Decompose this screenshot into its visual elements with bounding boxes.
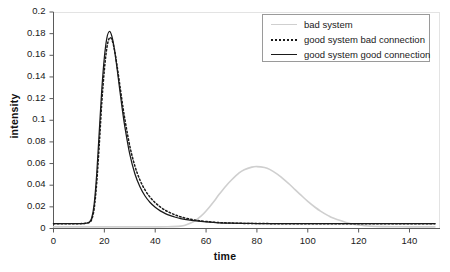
chart-legend: bad system good system bad connection go… [262,14,430,62]
chart-figure: intensity time 00.020.040.060.080.10.120… [0,0,450,272]
series-line-2 [54,37,435,223]
legend-item-good-system-bad-connection: good system bad connection [269,33,425,47]
y-tick-label: 0.2 [0,5,46,16]
legend-label: good system bad connection [304,34,425,46]
y-tick-label: 0.12 [0,92,46,103]
legend-item-bad-system: bad system [269,18,353,32]
legend-line-swatch-solid [269,49,299,61]
x-tick-label: 0 [29,235,79,246]
legend-item-good-system-good-connection: good system good connection [269,48,430,62]
x-tick-label: 100 [283,235,333,246]
y-tick-label: 0.02 [0,200,46,211]
legend-line-swatch-dotted [269,34,299,46]
legend-line-swatch-gray [269,19,299,31]
y-tick-label: 0.16 [0,48,46,59]
series-line-1 [54,167,435,227]
x-axis-label: time [0,250,450,262]
x-tick-label: 120 [334,235,384,246]
x-tick-label: 80 [232,235,282,246]
y-tick-label: 0 [0,222,46,233]
legend-label: good system good connection [304,49,430,61]
y-tick-label: 0.18 [0,27,46,38]
y-tick-label: 0.08 [0,135,46,146]
x-tick-label: 20 [79,235,129,246]
x-tick-label: 40 [130,235,180,246]
legend-label: bad system [304,19,353,31]
x-tick-label: 140 [384,235,434,246]
y-tick-label: 0.1 [0,113,46,124]
y-tick-label: 0.06 [0,157,46,168]
y-tick-label: 0.14 [0,70,46,81]
x-tick-label: 60 [181,235,231,246]
y-tick-label: 0.04 [0,178,46,189]
